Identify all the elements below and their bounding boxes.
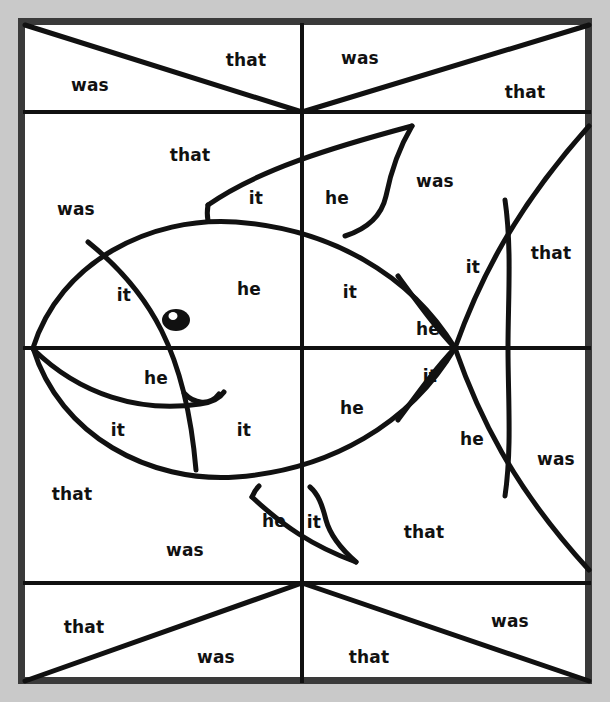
region-word-label[interactable]: it bbox=[423, 366, 437, 386]
region-word-label[interactable]: he bbox=[237, 279, 261, 299]
region-word-label[interactable]: he bbox=[325, 188, 349, 208]
region-word-label[interactable]: it bbox=[466, 257, 480, 277]
region-word-label[interactable]: was bbox=[537, 449, 575, 469]
fish-eye-highlight bbox=[169, 312, 178, 320]
region-word-label[interactable]: that bbox=[531, 243, 572, 263]
region-word-label[interactable]: that bbox=[170, 145, 211, 165]
region-word-label[interactable]: it bbox=[237, 420, 251, 440]
region-word-label[interactable]: that bbox=[404, 522, 445, 542]
region-word-label[interactable]: that bbox=[52, 484, 93, 504]
region-word-label[interactable]: he bbox=[460, 429, 484, 449]
region-word-label[interactable]: that bbox=[64, 617, 105, 637]
fish-word-puzzle-page: wasthatwasthatthatitwasithehewasititthat… bbox=[0, 0, 610, 702]
region-word-label[interactable]: was bbox=[341, 48, 379, 68]
region-word-label[interactable]: he bbox=[262, 511, 286, 531]
region-word-label[interactable]: that bbox=[349, 647, 390, 667]
fish-eye bbox=[162, 309, 190, 331]
region-word-label[interactable]: was bbox=[71, 75, 109, 95]
region-word-label[interactable]: was bbox=[166, 540, 204, 560]
region-word-label[interactable]: that bbox=[505, 82, 546, 102]
fish-dorsal-fin-base bbox=[207, 205, 208, 221]
region-word-label[interactable]: was bbox=[416, 171, 454, 191]
region-word-label[interactable]: was bbox=[491, 611, 529, 631]
region-word-label[interactable]: it bbox=[343, 282, 357, 302]
region-word-label[interactable]: he bbox=[416, 319, 440, 339]
fish-puzzle-canvas: wasthatwasthatthatitwasithehewasititthat… bbox=[0, 0, 610, 702]
region-word-label[interactable]: was bbox=[197, 647, 235, 667]
region-word-label[interactable]: he bbox=[340, 398, 364, 418]
region-word-label[interactable]: was bbox=[57, 199, 95, 219]
region-word-label[interactable]: it bbox=[249, 188, 263, 208]
region-word-label[interactable]: it bbox=[307, 512, 321, 532]
region-word-label[interactable]: it bbox=[117, 285, 131, 305]
region-word-label[interactable]: he bbox=[144, 368, 168, 388]
region-word-label[interactable]: that bbox=[226, 50, 267, 70]
region-word-label[interactable]: it bbox=[111, 420, 125, 440]
